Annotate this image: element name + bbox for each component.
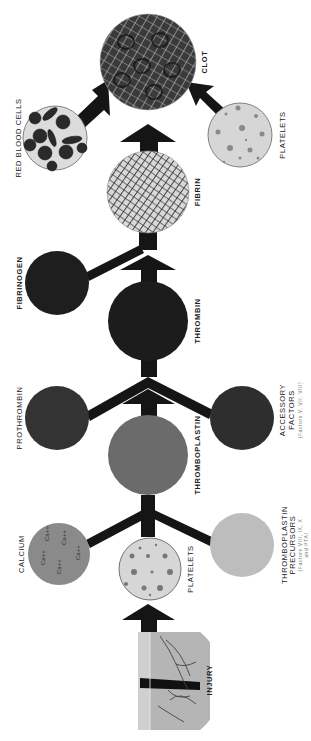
platelets-top-label: PLATELETS xyxy=(278,111,287,158)
clot-label: CLOT xyxy=(200,51,209,74)
platelets-bottom-label: PLATELETS xyxy=(186,545,195,592)
injury-illustration xyxy=(130,632,210,732)
clotting-cascade-diagram: CLOT RED BLOOD CELLS PL xyxy=(0,0,311,741)
accessory-factors-note: (Factors V, VII, VIII) xyxy=(297,382,303,439)
fibrinogen-circle xyxy=(25,251,89,315)
calcium-label: CALCIUM xyxy=(17,535,26,573)
node-calcium: Ca++ Ca++ Ca++ Ca++ Ca++ CALCIUM xyxy=(17,523,90,585)
thromboplastin-circle xyxy=(108,415,188,495)
node-platelets-bottom: PLATELETS xyxy=(119,538,195,600)
calcium-ion-5: Ca++ xyxy=(75,545,81,560)
fibrinogen-label: FIBRINOGEN xyxy=(15,256,24,309)
node-accessory-factors: ACCESSORY FACTORS (Factors V, VII, VIII) xyxy=(210,382,303,450)
thromboplastin-label: THROMBOPLASTIN xyxy=(193,415,202,494)
node-red-blood-cells: RED BLOOD CELLS xyxy=(14,98,87,177)
injury-label: INJURY xyxy=(205,665,214,696)
accessory-factors-circle xyxy=(210,386,274,450)
node-thromboplastin-precursors: THROMBOPLASTIN PRECURSORS (Factors VIII,… xyxy=(210,506,309,584)
node-thrombin: THROMBIN xyxy=(108,281,202,361)
node-injury: INJURY xyxy=(130,632,214,732)
node-platelets-top: PLATELETS xyxy=(208,103,287,167)
accessory-factors-label-2: FACTORS xyxy=(287,390,296,429)
node-prothrombin: PROTHROMBIN xyxy=(15,386,89,450)
accessory-factors-label-1: ACCESSORY xyxy=(278,384,287,436)
calcium-ion-3: Ca++ xyxy=(56,559,62,574)
thrombin-circle xyxy=(108,281,188,361)
node-fibrin: FIBRIN xyxy=(107,151,202,233)
fibrin-circle xyxy=(107,151,189,233)
thromboplastin-precursors-note-2: and PTA) xyxy=(303,532,309,558)
platelets-bottom-circle xyxy=(119,538,181,600)
node-fibrinogen: FIBRINOGEN xyxy=(15,251,89,315)
thromboplastin-precursors-label-2: PRECURSORS xyxy=(288,516,297,575)
node-thromboplastin: THROMBOPLASTIN xyxy=(108,415,202,495)
prothrombin-circle xyxy=(25,386,89,450)
red-blood-cells-label: RED BLOOD CELLS xyxy=(14,98,23,177)
calcium-ion-4: Ca++ xyxy=(61,530,67,545)
thromboplastin-precursors-circle xyxy=(210,513,274,577)
thrombin-label: THROMBIN xyxy=(193,298,202,343)
fibrin-label: FIBRIN xyxy=(193,178,202,207)
calcium-ion-1: Ca++ xyxy=(40,550,46,565)
calcium-ion-2: Ca++ xyxy=(44,526,50,541)
prothrombin-label: PROTHROMBIN xyxy=(15,387,24,450)
